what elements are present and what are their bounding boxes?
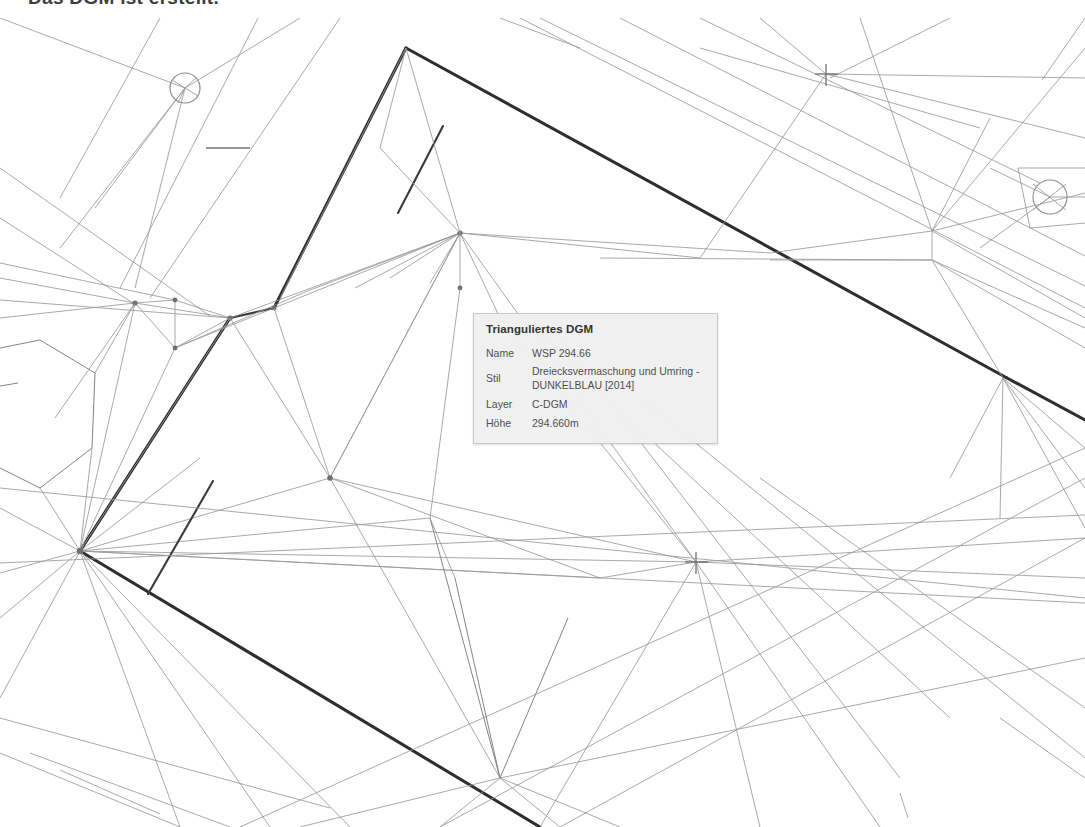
property-key-stil: Stil: [486, 363, 532, 396]
tooltip-property-table: Name WSP 294.66 Stil Dreiecksvermaschung…: [486, 344, 707, 433]
page-title: Das DGM ist erstellt.: [28, 0, 219, 9]
tooltip-title: Trianguliertes DGM: [486, 323, 707, 335]
property-key-name: Name: [486, 344, 532, 363]
table-row: Layer C-DGM: [486, 396, 707, 415]
property-key-layer: Layer: [486, 396, 532, 415]
property-value-name: WSP 294.66: [532, 344, 707, 363]
table-row: Name WSP 294.66: [486, 344, 707, 363]
property-value-layer: C-DGM: [532, 396, 707, 415]
property-value-stil: Dreiecksvermaschung und Umring - DUNKELB…: [532, 363, 707, 396]
table-row: Stil Dreiecksvermaschung und Umring - DU…: [486, 363, 707, 396]
table-row: Höhe 294.660m: [486, 414, 707, 433]
object-info-tooltip: Trianguliertes DGM Name WSP 294.66 Stil …: [473, 313, 718, 444]
property-value-hoehe: 294.660m: [532, 414, 707, 433]
page-root: Das DGM ist erstellt. .t { stroke:#9a9a9…: [0, 0, 1085, 827]
property-key-hoehe: Höhe: [486, 414, 532, 433]
